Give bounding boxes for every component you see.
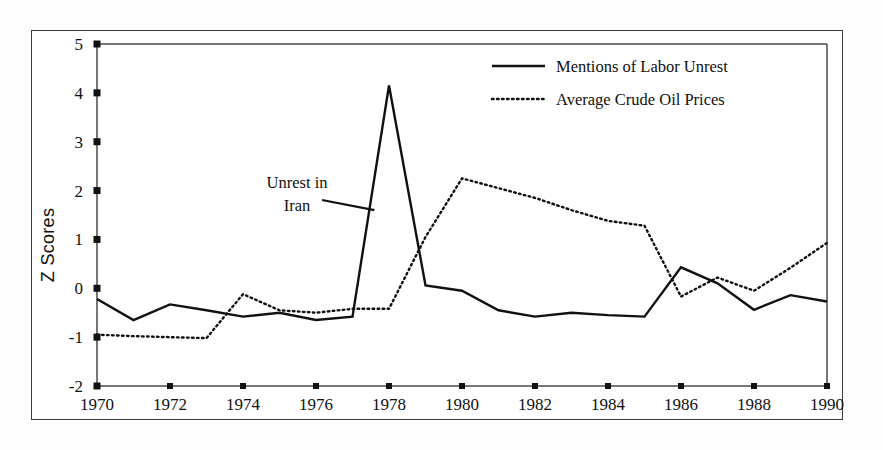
x-tick-label: 1982 bbox=[518, 395, 552, 414]
y-tick-mark bbox=[94, 138, 101, 145]
x-tick-mark bbox=[459, 383, 465, 389]
y-axis-title: Z Scores bbox=[38, 208, 58, 282]
x-tick-label: 1984 bbox=[591, 395, 626, 414]
series-group bbox=[97, 86, 827, 339]
x-tick-label: 1986 bbox=[664, 395, 698, 414]
y-tick-label: 2 bbox=[75, 182, 84, 201]
x-tick-mark bbox=[167, 383, 173, 389]
y-tick-label: -2 bbox=[69, 377, 83, 396]
chart-canvas: -2-1012345 19701972197419761978198019821… bbox=[0, 0, 883, 450]
x-tick-label: 1970 bbox=[80, 395, 114, 414]
y-tick-label: 4 bbox=[75, 84, 84, 103]
x-tick-mark bbox=[94, 383, 100, 389]
y-tick-group: -2-1012345 bbox=[69, 35, 101, 396]
x-tick-label: 1974 bbox=[226, 395, 261, 414]
x-tick-mark bbox=[240, 383, 246, 389]
annotation-line-1: Unrest in bbox=[267, 173, 328, 192]
series-line-1 bbox=[97, 178, 827, 338]
x-tick-group: 1970197219741976197819801982198419861988… bbox=[80, 383, 844, 414]
y-tick-mark bbox=[94, 236, 101, 243]
x-tick-mark bbox=[678, 383, 684, 389]
y-tick-mark bbox=[94, 187, 101, 194]
x-tick-mark bbox=[532, 383, 538, 389]
y-tick-label: 1 bbox=[75, 230, 84, 249]
x-tick-label: 1980 bbox=[445, 395, 479, 414]
legend-label-0: Mentions of Labor Unrest bbox=[556, 57, 728, 76]
x-tick-mark bbox=[313, 383, 319, 389]
legend-label-1: Average Crude Oil Prices bbox=[556, 90, 725, 109]
y-tick-label: -1 bbox=[69, 328, 83, 347]
x-tick-label: 1990 bbox=[810, 395, 844, 414]
x-tick-label: 1988 bbox=[737, 395, 771, 414]
figure-root: -2-1012345 19701972197419761978198019821… bbox=[0, 0, 883, 450]
y-tick-mark bbox=[94, 89, 101, 96]
x-tick-label: 1976 bbox=[299, 395, 333, 414]
annotation-unrest-in-iran: Unrest in Iran bbox=[267, 173, 375, 215]
x-tick-label: 1972 bbox=[153, 395, 187, 414]
y-tick-label: 0 bbox=[75, 279, 84, 298]
x-tick-mark bbox=[605, 383, 611, 389]
legend: Mentions of Labor Unrest Average Crude O… bbox=[492, 57, 728, 109]
series-line-0 bbox=[97, 86, 827, 321]
y-tick-label: 3 bbox=[75, 133, 84, 152]
y-tick-label: 5 bbox=[75, 35, 84, 54]
x-tick-mark bbox=[824, 383, 830, 389]
annotation-leader-line bbox=[322, 200, 374, 210]
x-tick-mark bbox=[386, 383, 392, 389]
x-tick-mark bbox=[751, 383, 757, 389]
y-tick-mark bbox=[94, 285, 101, 292]
x-tick-label: 1978 bbox=[372, 395, 406, 414]
y-tick-mark bbox=[94, 41, 101, 48]
annotation-line-2: Iran bbox=[284, 196, 311, 215]
